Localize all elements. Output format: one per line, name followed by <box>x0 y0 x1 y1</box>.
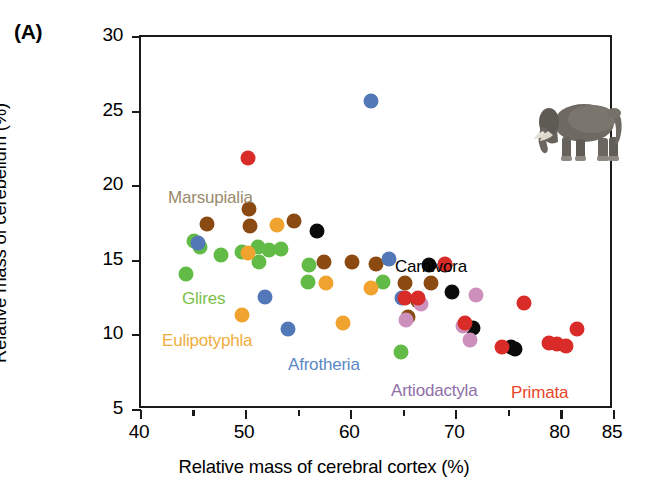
x-tick-70 <box>455 410 457 419</box>
data-point-afrotheria <box>190 235 205 250</box>
x-tick-label-50: 50 <box>234 421 255 443</box>
data-point-eulipotyphla <box>364 280 379 295</box>
group-label-carnivora: Carnivora <box>395 257 467 277</box>
x-tick-label-70: 70 <box>444 421 465 443</box>
x-tick-label-40: 40 <box>129 421 150 443</box>
x-axis-title: Relative mass of cerebral cortex (%) <box>0 456 648 478</box>
data-point-glires <box>179 267 194 282</box>
x-minor-tick-55 <box>298 410 300 416</box>
data-point-marsupialia <box>243 219 258 234</box>
x-tick-label-60: 60 <box>339 421 360 443</box>
data-point-artiodactyla <box>469 288 484 303</box>
data-point-artiodactyla <box>462 332 477 347</box>
data-point-primata <box>411 291 426 306</box>
group-label-artiodactyla: Artiodactyla <box>391 381 477 401</box>
data-point-afrotheria <box>258 289 273 304</box>
data-point-primata <box>570 322 585 337</box>
data-point-primata <box>558 338 573 353</box>
x-tick-40 <box>140 410 142 419</box>
x-minor-tick-75 <box>508 410 510 416</box>
data-point-carnivora <box>508 341 523 356</box>
y-tick-label-10: 10 <box>0 322 123 344</box>
y-tick-20 <box>132 185 141 187</box>
data-point-afrotheria <box>364 94 379 109</box>
y-tick-label-30: 30 <box>0 24 123 46</box>
y-tick-30 <box>132 36 141 38</box>
data-point-glires <box>302 258 317 273</box>
y-tick-label-5: 5 <box>0 397 123 419</box>
data-point-primata <box>494 340 509 355</box>
y-tick-label-25: 25 <box>0 99 123 121</box>
y-tick-label-15: 15 <box>0 248 123 270</box>
data-point-carnivora <box>445 285 460 300</box>
group-label-eulipotyphla: Eulipotyphla <box>162 331 252 351</box>
y-tick-15 <box>132 260 141 262</box>
data-point-marsupialia <box>200 216 215 231</box>
x-tick-80 <box>560 410 562 419</box>
x-tick-label-80: 80 <box>549 421 570 443</box>
data-point-eulipotyphla <box>241 246 256 261</box>
figure-panel-a: (A) Relative mass of cerebellum (%) Rela… <box>0 0 648 500</box>
data-point-marsupialia <box>316 255 331 270</box>
group-label-marsupialia: Marsupialia <box>168 188 253 208</box>
data-point-glires <box>393 344 408 359</box>
data-point-primata <box>516 295 531 310</box>
group-label-afrotheria: Afrotheria <box>288 355 360 375</box>
data-point-glires <box>273 241 288 256</box>
data-point-marsupialia <box>287 213 302 228</box>
group-label-primata: Primata <box>511 383 568 403</box>
data-point-primata <box>457 316 472 331</box>
data-point-primata <box>241 150 256 165</box>
data-point-marsupialia <box>424 276 439 291</box>
data-point-glires <box>301 274 316 289</box>
data-point-eulipotyphla <box>269 217 284 232</box>
y-tick-label-20: 20 <box>0 173 123 195</box>
x-tick-50 <box>245 410 247 419</box>
data-point-eulipotyphla <box>335 316 350 331</box>
x-minor-tick-45 <box>192 410 194 416</box>
group-label-glires: Glires <box>182 289 225 309</box>
x-tick-60 <box>350 410 352 419</box>
x-tick-label-85: 85 <box>602 421 623 443</box>
x-minor-tick-65 <box>403 410 405 416</box>
data-point-marsupialia <box>397 276 412 291</box>
data-point-eulipotyphla <box>318 276 333 291</box>
data-point-marsupialia <box>345 255 360 270</box>
x-tick-85 <box>613 410 615 419</box>
data-point-eulipotyphla <box>234 307 249 322</box>
y-tick-25 <box>132 111 141 113</box>
data-point-glires <box>213 247 228 262</box>
data-point-carnivora <box>309 223 324 238</box>
y-axis-title: Relative mass of cerebellum (%) <box>0 18 11 448</box>
data-point-artiodactyla <box>398 313 413 328</box>
plot-area: MarsupialiaGliresEulipotyphlaAfrotheriaC… <box>139 35 612 408</box>
elephant-photo <box>522 93 640 171</box>
data-point-afrotheria <box>281 322 296 337</box>
y-tick-10 <box>132 334 141 336</box>
